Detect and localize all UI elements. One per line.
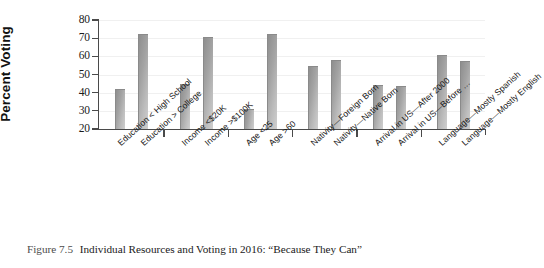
figure-number: Figure 7.5: [27, 243, 73, 255]
y-axis-tick-label: 20: [0, 123, 90, 135]
figure-caption: Figure 7.5 Individual Resources and Voti…: [27, 243, 362, 255]
y-axis-tick-label: 70: [0, 32, 90, 44]
y-axis-tick-label: 40: [0, 87, 90, 99]
x-axis-group-tick: [292, 130, 293, 137]
y-axis-tick-label: 60: [0, 50, 90, 62]
y-axis-tick-label: 80: [0, 14, 90, 26]
bar[interactable]: [308, 66, 318, 129]
figure-title: Individual Resources and Voting in 2016:…: [80, 243, 362, 255]
y-axis-tick-label: 50: [0, 69, 90, 81]
bar[interactable]: [115, 89, 125, 129]
y-axis-tick-label: 30: [0, 105, 90, 117]
bar[interactable]: [267, 34, 277, 129]
